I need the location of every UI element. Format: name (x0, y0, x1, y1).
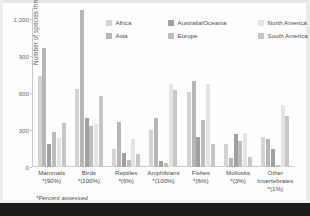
legend-label: Africa (116, 19, 132, 26)
bar (261, 137, 265, 167)
bar (149, 130, 153, 167)
bar (238, 141, 242, 167)
bar (112, 149, 116, 167)
bar (85, 118, 89, 167)
bar (211, 144, 215, 167)
bar (281, 105, 285, 167)
legend-label: North America (268, 19, 307, 26)
bar-group (33, 8, 70, 167)
x-tick-label-name: Amphibians (147, 169, 179, 176)
bar (173, 90, 177, 167)
legend-column: AfricaAsia (106, 17, 131, 43)
legend-column: North AmericaSouth America (258, 17, 308, 43)
bar (224, 144, 228, 167)
bar (38, 76, 42, 167)
bar (276, 165, 280, 167)
bar (285, 116, 289, 167)
legend-item[interactable]: Asia (106, 30, 131, 41)
x-tick-label-name: Reptiles (115, 169, 137, 176)
bar (271, 149, 275, 167)
bar (196, 137, 200, 167)
x-tick-label: Other Invertebrates*(1%) (251, 169, 300, 194)
y-tick-label: 300 (0, 127, 29, 134)
legend-swatch-icon (168, 33, 174, 39)
legend-label: Asia (116, 32, 128, 39)
page-top-border (0, 0, 310, 3)
bar-group (70, 8, 107, 167)
legend-label: Australia/Oceania (178, 19, 227, 26)
bar (117, 122, 121, 167)
y-tick-label: 1,200 (0, 16, 29, 23)
bar (229, 158, 233, 167)
bar (243, 133, 247, 167)
bar (52, 132, 56, 167)
legend-item[interactable]: South America (258, 30, 308, 41)
bar (192, 81, 196, 167)
x-tick-label-percent: *(1%) (251, 185, 300, 193)
y-tick-label: 0 (0, 164, 29, 171)
x-tick-label-name: Other Invertebrates (257, 169, 293, 184)
legend-label: Europe (178, 32, 198, 39)
x-tick-label-name: Fishes (192, 169, 210, 176)
bar (136, 154, 140, 167)
bar (47, 144, 51, 167)
bar (122, 153, 126, 167)
x-tick-label-name: Mollusks (226, 169, 250, 176)
bar (89, 126, 93, 167)
legend-item[interactable]: Australia/Oceania (168, 17, 226, 28)
chart-legend: AfricaAsiaAustralia/OceaniaEuropeNorth A… (106, 17, 304, 43)
bar (80, 10, 84, 167)
x-tick-label-name: Mammals (38, 169, 65, 176)
bar (75, 89, 79, 167)
y-tick-mark (30, 130, 32, 131)
legend-label: South America (268, 32, 308, 39)
y-tick-label: 900 (0, 53, 29, 60)
bar (169, 84, 173, 167)
bar (127, 160, 131, 167)
legend-swatch-icon (106, 20, 112, 26)
bar (62, 123, 66, 167)
legend-swatch-icon (106, 33, 112, 39)
bar (131, 139, 135, 167)
y-tick-mark (30, 167, 32, 168)
bar (159, 161, 163, 167)
bar (99, 96, 103, 167)
legend-swatch-icon (258, 33, 264, 39)
x-tick-label-name: Birds (82, 169, 96, 176)
y-tick-mark (30, 56, 32, 57)
legend-swatch-icon (168, 20, 174, 26)
y-tick-label: 600 (0, 90, 29, 97)
bar (154, 118, 158, 167)
bar (234, 134, 238, 167)
bar (164, 163, 168, 167)
legend-item[interactable]: North America (258, 17, 308, 28)
legend-swatch-icon (258, 20, 264, 26)
legend-item[interactable]: Africa (106, 17, 131, 28)
bar (206, 84, 210, 167)
bar (266, 139, 270, 167)
bar (248, 157, 252, 167)
page-bottom-bar (0, 203, 310, 216)
bar (187, 92, 191, 167)
y-tick-mark (30, 19, 32, 20)
legend-item[interactable]: Europe (168, 30, 226, 41)
legend-column: Australia/OceaniaEurope (168, 17, 226, 43)
chart-page: Number of species threatened 03006009001… (0, 0, 310, 216)
bar (42, 48, 46, 167)
bar (201, 120, 205, 167)
bar (57, 138, 61, 167)
bar (94, 124, 98, 167)
y-tick-mark (30, 93, 32, 94)
